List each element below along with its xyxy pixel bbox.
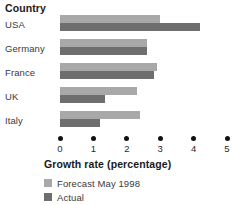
- bar-chart: Country USAGermanyFranceUKItaly 012345 G…: [0, 0, 233, 205]
- bar-actual: [60, 47, 147, 55]
- x-axis-tick-label: 0: [53, 143, 67, 154]
- x-axis-tick-label: 1: [86, 143, 100, 154]
- x-axis-tick-label: 5: [220, 143, 233, 154]
- legend-label: Actual: [57, 192, 84, 203]
- legend-swatch-icon: [44, 193, 52, 201]
- tick-dot-icon: [191, 136, 196, 141]
- chart-row: USA: [0, 14, 233, 38]
- legend-item: Actual: [44, 188, 233, 202]
- x-axis-tick-label: 3: [153, 143, 167, 154]
- legend-item: Forecast May 1998: [44, 174, 233, 188]
- chart-row: Italy: [0, 110, 233, 134]
- chart-row: Germany: [0, 38, 233, 62]
- bar-forecast: [60, 111, 140, 119]
- bar-actual: [60, 71, 154, 79]
- chart-title: Country: [5, 2, 46, 14]
- x-axis-tick-label: 2: [120, 143, 134, 154]
- x-axis-tick: 0: [53, 136, 67, 154]
- chart-legend: Forecast May 1998Actual: [44, 174, 233, 202]
- x-axis-tick: 3: [153, 136, 167, 154]
- category-label: Italy: [5, 115, 23, 126]
- bar-actual: [60, 23, 200, 31]
- x-axis-title: Growth rate (percentage): [44, 158, 171, 170]
- category-label: USA: [5, 19, 25, 30]
- bar-forecast: [60, 87, 137, 95]
- plot-area: USAGermanyFranceUKItaly: [0, 14, 233, 136]
- x-axis-tick: 4: [187, 136, 201, 154]
- tick-dot-icon: [124, 136, 129, 141]
- x-axis-tick: 5: [220, 136, 233, 154]
- x-axis: 012345: [0, 136, 233, 158]
- tick-dot-icon: [91, 136, 96, 141]
- x-axis-tick: 1: [86, 136, 100, 154]
- tick-dot-icon: [58, 136, 63, 141]
- category-label: France: [5, 67, 35, 78]
- bar-forecast: [60, 15, 160, 23]
- chart-row: UK: [0, 86, 233, 110]
- bar-actual: [60, 119, 100, 127]
- bar-forecast: [60, 63, 157, 71]
- x-axis-tick-label: 4: [187, 143, 201, 154]
- tick-dot-icon: [225, 136, 230, 141]
- chart-row: France: [0, 62, 233, 86]
- x-axis-tick: 2: [120, 136, 134, 154]
- category-label: UK: [5, 91, 18, 102]
- legend-swatch-icon: [44, 179, 52, 187]
- tick-dot-icon: [158, 136, 163, 141]
- bar-actual: [60, 95, 105, 103]
- bar-forecast: [60, 39, 147, 47]
- category-label: Germany: [5, 43, 45, 54]
